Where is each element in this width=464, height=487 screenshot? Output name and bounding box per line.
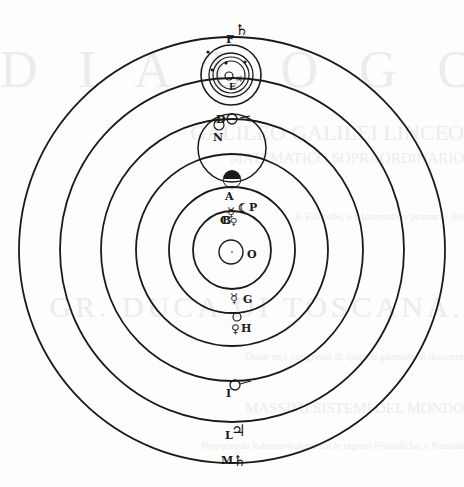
copernican-diagram: D I A L O G O GALILEO GALILEI LINCEO MAT… <box>0 0 464 487</box>
label-N: N <box>213 131 223 144</box>
label-G: G <box>243 293 252 306</box>
label-D: D <box>216 113 226 126</box>
label-O: O <box>247 248 257 261</box>
label-A: A <box>224 190 234 203</box>
label-I: I <box>226 387 231 400</box>
mercury-symbol-G: ☿ <box>230 291 238 306</box>
orbit-diagram: F E D N A C P B B B O G H I L M ♄ ♃ ☾ ♀ … <box>0 0 464 487</box>
jupiter-symbol: ♃ <box>235 74 243 84</box>
saturn-orbit <box>19 37 445 463</box>
label-H: H <box>241 322 251 335</box>
venus-H <box>233 313 241 321</box>
sun <box>219 240 243 264</box>
saturn-symbol-top: ♄ <box>235 21 248 39</box>
earth-orbit <box>136 154 328 346</box>
jupiter-orbit <box>60 78 404 422</box>
venus-symbol-H: ♀ <box>231 322 240 336</box>
jupiter-moons-outer <box>201 45 261 105</box>
jupiter-symbol-L: ♃ <box>231 421 245 440</box>
mercury-symbol-B: ☿ <box>227 205 235 220</box>
saturn-symbol-M: ♄ <box>233 452 246 470</box>
label-P: P <box>249 201 257 214</box>
moon-symbol: ☾ <box>238 201 249 215</box>
earth-A <box>223 170 241 179</box>
label-M: M <box>221 454 233 467</box>
mars-orbit <box>101 119 363 381</box>
label-F: F <box>226 33 234 46</box>
